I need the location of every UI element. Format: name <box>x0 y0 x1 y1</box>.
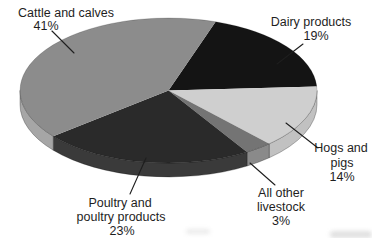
pie-chart-canvas: Dairy products19%Hogs andpigs14%All othe… <box>0 0 372 238</box>
slice-label-cattle-and-calves: 41% <box>33 19 58 33</box>
slice-label-hogs-and-pigs: 14% <box>329 170 354 184</box>
slice-label-dairy-products: 19% <box>303 29 328 43</box>
slice-label-hogs-and-pigs: Hogs and <box>314 141 368 155</box>
slice-label-hogs-and-pigs: pigs <box>331 156 354 170</box>
slice-label-poultry-and-poultry-products: 23% <box>109 224 134 238</box>
scan-smudge <box>330 231 372 238</box>
pie-slices <box>20 18 317 163</box>
slice-label-cattle-and-calves: Cattle and calves <box>18 6 114 20</box>
slice-label-poultry-and-poultry-products: poultry products <box>77 210 166 224</box>
slice-label-all-other-livestock: 3% <box>272 214 290 228</box>
slice-label-dairy-products: Dairy products <box>271 15 352 29</box>
slice-label-poultry-and-poultry-products: Poultry and <box>88 196 151 210</box>
slice-label-all-other-livestock: livestock <box>257 200 306 214</box>
scan-smudge <box>186 229 210 234</box>
slice-label-all-other-livestock: All other <box>258 186 304 200</box>
leader-line-all-other-livestock <box>250 163 275 185</box>
livestock-pie-chart-figure: Dairy products19%Hogs andpigs14%All othe… <box>0 0 372 238</box>
